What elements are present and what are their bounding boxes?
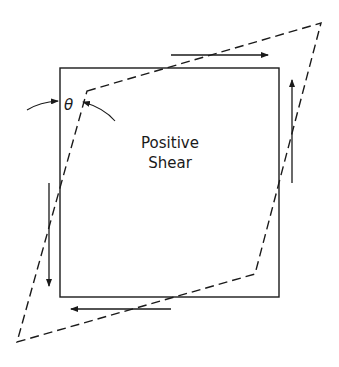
theta-symbol: θ [64, 96, 73, 114]
original-square [60, 68, 279, 297]
angle-arc-left [27, 101, 58, 110]
label-line-1: Positive [141, 134, 199, 152]
label-line-2: Shear [148, 154, 192, 172]
deformed-shape-dashed [17, 23, 321, 342]
positive-shear-diagram: θ Positive Shear [0, 0, 339, 367]
angle-arc-right [83, 102, 115, 121]
